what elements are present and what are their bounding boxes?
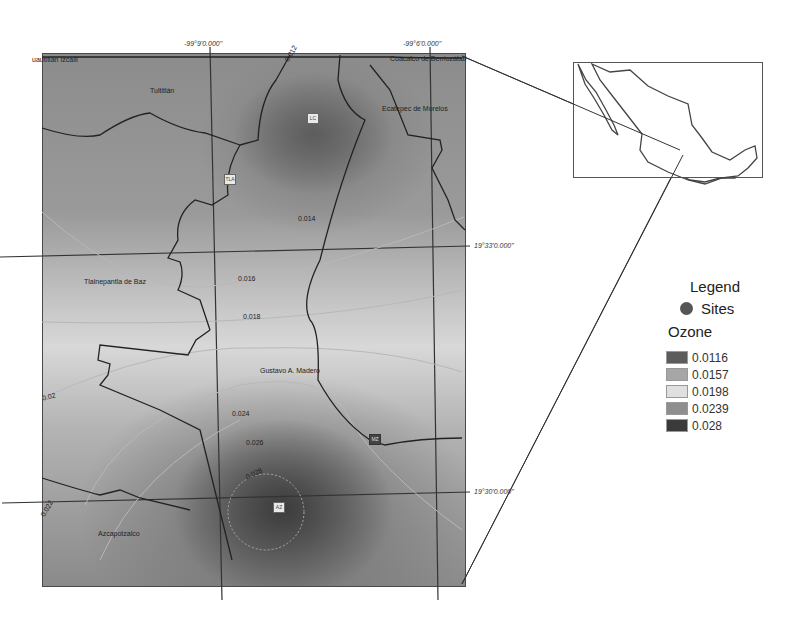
- legend-item: 0.0198: [666, 383, 729, 400]
- place-ecatepec: Ecatepec de Morelos: [382, 105, 448, 112]
- contour-lines: [42, 212, 464, 560]
- legend-value: 0.0198: [692, 385, 729, 399]
- contour-label: 0.016: [238, 275, 256, 282]
- site-dot-icon: [680, 302, 693, 315]
- graticule: [0, 47, 470, 600]
- site-marker-lc[interactable]: LC: [307, 113, 319, 124]
- place-gustavo: Gustavo A. Madero: [260, 367, 320, 374]
- place-coacalco: Coacalco de Berriozábal: [390, 55, 466, 62]
- legend-item: 0.028: [666, 417, 729, 434]
- legend-swatch: [666, 368, 688, 381]
- contour-label: 0.014: [298, 215, 316, 222]
- legend-items: 0.0116 0.0157 0.0198 0.0239 0.028: [666, 349, 729, 434]
- lon-label-1: -99°9'0.000": [184, 40, 222, 47]
- site-marker-mz[interactable]: MZ: [369, 434, 381, 445]
- legend-swatch: [666, 385, 688, 398]
- place-tlalnepantla: Tlalnepantla de Baz: [84, 278, 146, 285]
- legend-sites-label: Sites: [701, 300, 734, 317]
- contour-label: 0.024: [232, 410, 250, 417]
- legend-item: 0.0116: [666, 349, 729, 366]
- legend-value: 0.0157: [692, 368, 729, 382]
- legend-value: 0.028: [692, 419, 722, 433]
- legend-swatch: [666, 351, 688, 364]
- legend-value: 0.0239: [692, 402, 729, 416]
- site-marker-az[interactable]: AZ: [273, 502, 285, 513]
- legend-value: 0.0116: [692, 351, 728, 365]
- legend-swatch: [666, 402, 688, 415]
- locator-inset: [573, 62, 763, 178]
- place-cuautitlan: uautitlán Izcalli: [32, 56, 78, 63]
- place-azcapotzalco: Azcapotzalco: [98, 530, 140, 537]
- contour-label: 0.026: [246, 439, 264, 446]
- legend-swatch: [666, 419, 688, 432]
- legend-sites: Sites: [680, 300, 734, 317]
- place-tultitlan: Tultitlán: [150, 87, 174, 94]
- legend-title: Legend: [690, 278, 740, 295]
- legend-item: 0.0239: [666, 400, 729, 417]
- lat-label-2: 19°30'0.000": [474, 488, 514, 495]
- legend-item: 0.0157: [666, 366, 729, 383]
- legend-ozone-label: Ozone: [668, 323, 712, 340]
- lon-label-2: -99°6'0.000": [403, 40, 441, 47]
- contour-label: 0.018: [243, 313, 261, 320]
- municipal-boundaries: [42, 55, 465, 560]
- lat-label-1: 19°33'0.000": [474, 242, 514, 249]
- site-marker-tla[interactable]: TLA: [224, 174, 236, 185]
